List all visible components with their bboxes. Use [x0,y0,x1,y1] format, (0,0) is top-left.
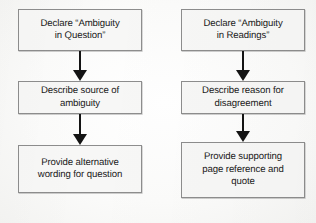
arrow-shaft [79,51,81,71]
arrow-down-icon [236,51,250,81]
node-provide-supporting-page-reference[interactable]: Provide supporting page reference and qu… [181,142,305,198]
arrow-head [236,131,250,142]
node-declare-ambiguity-in-question[interactable]: Declare “Ambiguity in Question” [18,9,142,51]
arrow-head [236,70,250,81]
arrow-shaft [242,114,244,132]
node-describe-source-of-ambiguity[interactable]: Describe source of ambiguity [18,81,142,114]
node-declare-ambiguity-in-readings[interactable]: Declare “Ambiguity in Readings” [181,9,305,51]
arrow-head [73,70,87,81]
arrow-head [73,134,87,145]
arrow-shaft [242,51,244,71]
node-label: Declare “Ambiguity in Question” [36,18,123,43]
arrow-down-icon [236,114,250,142]
node-label: Declare “Ambiguity in Readings” [199,18,286,43]
node-describe-reason-for-disagreement[interactable]: Describe reason for disagreement [181,81,305,114]
node-label: Describe source of ambiguity [37,85,123,110]
node-label: Provide supporting page reference and qu… [198,151,287,188]
flow-column-ambiguity-in-question: Declare “Ambiguity in Question” Describe… [18,0,144,223]
arrow-down-icon [73,51,87,81]
arrow-shaft [79,114,81,135]
node-label: Provide alternative wording for question [34,157,126,182]
node-label: Describe reason for disagreement [198,85,288,110]
arrow-down-icon [73,114,87,145]
node-provide-alternative-wording[interactable]: Provide alternative wording for question [18,145,142,193]
flow-column-ambiguity-in-readings: Declare “Ambiguity in Readings” Describe… [181,0,307,223]
flowchart-diagram: Declare “Ambiguity in Question” Describe… [0,0,316,223]
